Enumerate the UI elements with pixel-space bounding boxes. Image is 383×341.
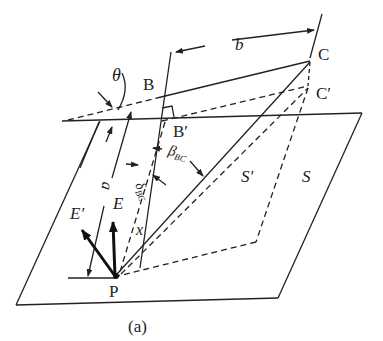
point-b-prime-label: B′ — [173, 123, 188, 140]
theta-dashed-line — [68, 97, 161, 120]
vector-e — [113, 222, 115, 276]
plane-s-outline — [16, 113, 362, 305]
line-p-cprime — [121, 88, 308, 274]
figure-caption: (a) — [128, 318, 147, 335]
point-c-label: C — [318, 46, 329, 63]
plane-s-label: S — [302, 168, 311, 185]
vector-e-prime — [82, 230, 115, 276]
plane-s-prime-label: S′ — [241, 168, 253, 185]
diagram-canvas: θ B b C C′ B′ βBC δBC a E′ E x S′ S P (a… — [0, 0, 383, 341]
theta-label: θ — [112, 66, 121, 84]
vector-e-prime-label: E′ — [70, 205, 84, 222]
distance-x-label: x — [136, 222, 143, 238]
point-c-prime-label: C′ — [316, 85, 331, 102]
point-p-label: P — [109, 283, 118, 300]
line-bc — [161, 61, 310, 97]
point-p-dot — [113, 273, 119, 279]
dimension-b-label: b — [235, 36, 244, 53]
vector-e-label: E — [113, 195, 123, 212]
point-b-label: B — [143, 76, 154, 93]
